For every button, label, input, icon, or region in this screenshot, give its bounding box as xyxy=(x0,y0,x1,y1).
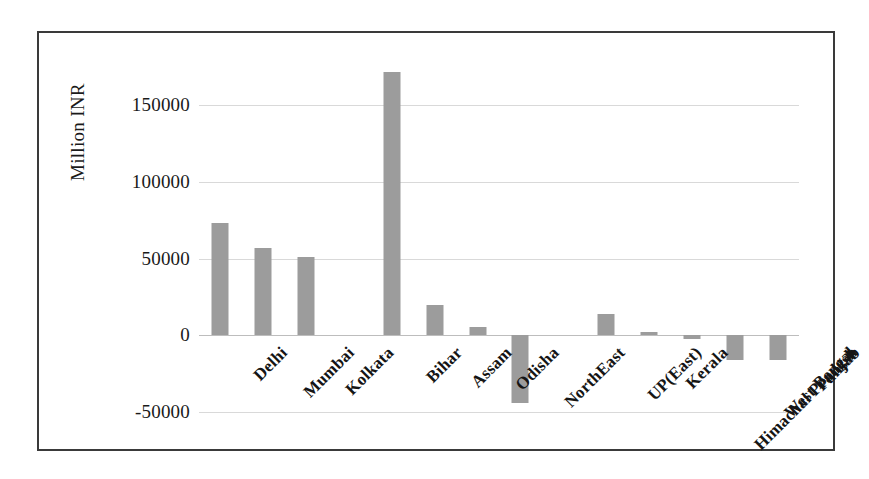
bar-delhi xyxy=(199,67,242,412)
y-axis-title: Million INR xyxy=(67,83,89,181)
y-tick-label-150000: 150000 xyxy=(132,94,190,116)
gridline--50000 xyxy=(199,412,799,413)
bar-rect xyxy=(255,248,272,335)
plot-area: 150000100000500000-50000 DelhiMumbaiKolk… xyxy=(199,67,799,412)
bar-rect xyxy=(683,335,700,339)
bar-rect xyxy=(426,305,443,336)
y-tick-label-0: 0 xyxy=(180,324,190,346)
bar-rect xyxy=(769,335,786,360)
bar-punjab xyxy=(756,67,799,412)
y-tick-label-100000: 100000 xyxy=(132,171,190,193)
bar-rect xyxy=(383,72,400,336)
bar-rect xyxy=(298,257,315,335)
bar-rect xyxy=(212,223,229,335)
chart-figure-frame: Million INR 150000100000500000-50000 Del… xyxy=(37,31,835,451)
y-tick-label-50000: 50000 xyxy=(142,248,191,270)
bar-kolkata xyxy=(285,67,328,412)
bar-rect xyxy=(640,332,657,336)
bar-rect xyxy=(469,327,486,335)
bar-rect xyxy=(598,314,615,335)
bar-kerala xyxy=(628,67,671,412)
y-tick-label--50000: -50000 xyxy=(135,401,190,423)
